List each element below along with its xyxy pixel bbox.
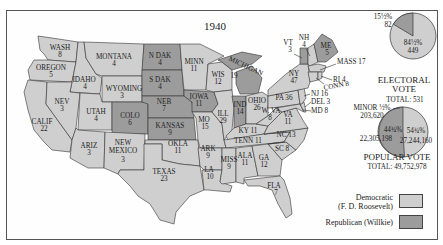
label-wyoming: WYOMING bbox=[106, 85, 142, 93]
label-mo-ev: 15 bbox=[201, 123, 209, 131]
label-nh-ev: 4 bbox=[302, 41, 306, 49]
popular-rep-pct: 44¾% bbox=[384, 126, 403, 134]
popular-minor-label: MINOR ½% bbox=[353, 104, 390, 112]
label-newmex: NEW bbox=[115, 139, 132, 147]
electoral-dem-pct: 84½% bbox=[404, 39, 423, 47]
electoral-vote-pie: 15½% 82 84½% 449 ELECTORAL VOTE TOTAL: 5… bbox=[374, 13, 436, 104]
label-colo-ev: 6 bbox=[128, 119, 132, 127]
electoral-heading-2: VOTE bbox=[392, 84, 416, 94]
label-kansas-ev: 9 bbox=[168, 129, 172, 137]
label-texas-ev: 23 bbox=[160, 175, 168, 183]
label-mass: MASS 17 bbox=[337, 58, 366, 66]
label-wis-ev: 12 bbox=[214, 78, 222, 86]
state-mass bbox=[308, 64, 326, 72]
label-ga-ev: 12 bbox=[260, 161, 268, 169]
popular-minor-votes: 203,620 bbox=[360, 112, 384, 120]
legend-democratic-line1: Democratic bbox=[325, 193, 393, 202]
label-pa: PA 36 bbox=[275, 94, 293, 102]
label-ark-ev: 9 bbox=[206, 152, 210, 160]
label-vt-ev: 3 bbox=[288, 46, 292, 54]
electoral-rep-votes: 82 bbox=[384, 21, 392, 29]
label-okla-ev: 11 bbox=[175, 147, 182, 155]
legend-republican-swatch bbox=[399, 215, 423, 229]
leader-ri bbox=[321, 76, 332, 80]
label-calif-ev: 22 bbox=[40, 125, 48, 133]
label-neb-ev: 7 bbox=[162, 105, 166, 113]
label-oregon-ev: 5 bbox=[49, 71, 53, 79]
label-wyoming-ev: 3 bbox=[120, 92, 124, 100]
popular-vote-pie: MINOR ½% 203,620 44¾% 22,305,198 54¾% 27… bbox=[353, 104, 432, 171]
label-wash-ev: 8 bbox=[58, 51, 62, 59]
label-montana-ev: 4 bbox=[112, 60, 116, 68]
label-iowa-ev: 11 bbox=[196, 100, 203, 108]
label-wva-ev: 8 bbox=[268, 114, 272, 122]
label-ky: KY 11 bbox=[239, 127, 258, 135]
label-newmex-ev: 3 bbox=[121, 156, 125, 164]
label-va-ev: 11 bbox=[285, 118, 292, 126]
label-minn-ev: 11 bbox=[191, 65, 198, 73]
popular-rep-votes: 22,305,198 bbox=[360, 135, 393, 143]
label-fla-ev: 7 bbox=[274, 189, 278, 197]
map-title: 1940 bbox=[204, 20, 227, 32]
electoral-dem-votes: 449 bbox=[408, 47, 419, 55]
legend-democratic-label: Democratic (F. D. Roosevelt) bbox=[325, 193, 393, 211]
label-md: MD 8 bbox=[311, 107, 328, 115]
popular-dem-votes: 27,244,160 bbox=[400, 137, 433, 145]
label-nj: NJ 16 bbox=[311, 90, 328, 98]
label-ndak-ev: 4 bbox=[158, 59, 162, 67]
label-sdak-ev: 4 bbox=[158, 83, 162, 91]
label-utah-ev: 4 bbox=[94, 115, 98, 123]
legend-democratic-swatch bbox=[399, 194, 423, 208]
label-miss-ev: 9 bbox=[227, 163, 231, 171]
state-conn bbox=[308, 72, 318, 82]
label-ill-ev: 29 bbox=[219, 117, 227, 125]
label-del: DEL 3 bbox=[311, 98, 331, 106]
legend-republican-label: Republican (Willkie) bbox=[320, 218, 393, 227]
label-ariz-ev: 3 bbox=[87, 149, 91, 157]
label-tenn: TENN 11 bbox=[234, 137, 262, 145]
label-michigan-ev: 19 bbox=[230, 72, 238, 80]
electoral-rep-pct: 15½% bbox=[374, 13, 393, 21]
label-la-ev: 10 bbox=[206, 173, 214, 181]
label-ind-ev: 14 bbox=[236, 108, 244, 116]
label-idaho-ev: 4 bbox=[83, 83, 87, 91]
label-me-ev: 5 bbox=[325, 49, 329, 57]
label-ala-ev: 11 bbox=[242, 159, 249, 167]
popular-dem-pct: 54¾% bbox=[407, 127, 426, 135]
label-sc: SC 8 bbox=[275, 145, 290, 153]
popular-total: TOTAL: 49,752,978 bbox=[368, 163, 427, 171]
label-newmex-2: MEXICO bbox=[109, 147, 137, 155]
electoral-total: TOTAL: 531 bbox=[386, 96, 424, 104]
label-ny-ev: 47 bbox=[290, 77, 298, 85]
popular-heading: POPULAR VOTE bbox=[363, 152, 431, 162]
legend-democratic-line2: (F. D. Roosevelt) bbox=[325, 202, 393, 211]
label-ohio-ev: 26 bbox=[253, 104, 261, 112]
label-nev-ev: 3 bbox=[60, 105, 64, 113]
label-nc: NC 13 bbox=[277, 131, 296, 139]
